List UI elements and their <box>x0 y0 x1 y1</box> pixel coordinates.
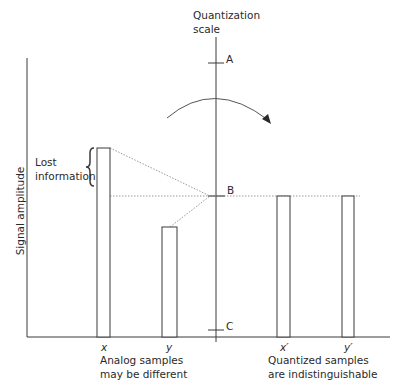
analog-caption-line2: may be different <box>100 367 187 381</box>
dotted-line-x-to-b <box>110 148 210 196</box>
sample-label-x-prime: x′ <box>280 340 289 354</box>
lost-information-line2: information <box>35 169 96 183</box>
analog-caption-line1: Analog samples <box>100 353 183 367</box>
curved-arrow-icon <box>167 98 268 120</box>
arrowhead-icon <box>262 114 271 124</box>
bar-x <box>97 148 110 337</box>
scale-label-line2: scale <box>193 22 220 36</box>
diagram-canvas <box>0 0 394 392</box>
sample-label-y: y <box>166 340 172 354</box>
y-axis-label: Signal amplitude <box>14 161 26 261</box>
bar-y-prime <box>342 196 354 337</box>
quantized-caption-line2: are indistinguishable <box>268 367 377 381</box>
level-c-label: C <box>226 319 233 333</box>
bar-y <box>162 227 177 337</box>
level-b-label: B <box>227 183 234 197</box>
sample-label-y-prime: y′ <box>344 340 353 354</box>
sample-label-x: x <box>101 340 107 354</box>
scale-label-line1: Quantization <box>193 8 260 22</box>
level-a-label: A <box>226 52 233 66</box>
dotted-line-y-to-b <box>170 196 210 227</box>
quantized-caption-line1: Quantized samples <box>268 353 369 367</box>
lost-information-line1: Lost <box>35 155 57 169</box>
bar-x-prime <box>277 196 290 337</box>
